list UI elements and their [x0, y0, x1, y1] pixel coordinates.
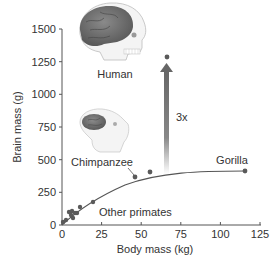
- human-label: Human: [97, 68, 132, 80]
- ratio-arrow: [160, 63, 173, 174]
- human-skull-illustration: [80, 3, 146, 60]
- brain-body-mass-chart: Human Chimpanzee 3x 1500 1250 1000 750 5…: [0, 0, 278, 265]
- data-point: [64, 218, 68, 222]
- x-tick-75: 75: [175, 228, 187, 240]
- gorilla-label: Gorilla: [216, 154, 249, 166]
- data-point: [73, 211, 77, 215]
- ratio-label: 3x: [176, 111, 188, 123]
- gorilla-point: [243, 169, 248, 174]
- data-points: [61, 55, 248, 225]
- x-axis-title: Body mass (kg): [117, 243, 193, 255]
- x-axis: 0 25 50 75 100 125 Body mass (kg): [59, 222, 269, 255]
- y-axis-title: Brain mass (g): [11, 91, 23, 163]
- chimpanzee-label: Chimpanzee: [71, 156, 133, 168]
- great-ape-point: [148, 170, 153, 175]
- y-tick-1500: 1500: [32, 23, 56, 35]
- y-tick-500: 500: [38, 154, 56, 166]
- chimpanzee-brain-icon: [82, 114, 106, 130]
- data-point: [78, 205, 82, 209]
- other-primates-label: Other primates: [99, 206, 172, 218]
- x-tick-25: 25: [95, 228, 107, 240]
- data-point: [69, 213, 73, 217]
- human-point: [165, 55, 170, 60]
- chimpanzee-leader-line: [128, 168, 134, 175]
- x-tick-50: 50: [135, 228, 147, 240]
- y-axis: 1500 1250 1000 750 500 250 0 Brain mass …: [11, 23, 62, 231]
- data-point: [91, 200, 95, 204]
- chimpanzee-point: [133, 175, 138, 180]
- x-tick-125: 125: [251, 228, 269, 240]
- x-tick-100: 100: [211, 228, 229, 240]
- y-tick-0: 0: [50, 219, 56, 231]
- x-tick-0: 0: [59, 228, 65, 240]
- y-tick-750: 750: [38, 121, 56, 133]
- y-tick-1000: 1000: [32, 88, 56, 100]
- y-tick-250: 250: [38, 186, 56, 198]
- y-tick-1250: 1250: [32, 56, 56, 68]
- chimpanzee-skull-illustration: [80, 109, 129, 152]
